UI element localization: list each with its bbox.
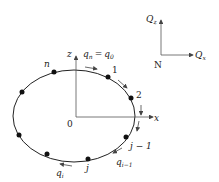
node [17, 133, 22, 138]
flow-arrow-top [85, 67, 97, 69]
flow-arrow-1-2 [118, 80, 127, 88]
node-label-2: 2 [136, 90, 142, 100]
qz-label: Qz [146, 14, 157, 25]
node-j [86, 157, 91, 162]
flow-label-qi-minus-1: qi−1 [116, 157, 133, 168]
flow-label-qi: qi [56, 168, 64, 179]
node-j-minus-1 [124, 135, 129, 140]
node-1 [106, 75, 111, 80]
node-label-1: 1 [112, 65, 118, 75]
force-origin-label: N [154, 60, 162, 70]
node-2 [129, 96, 134, 101]
diagram-canvas: z x 0 Qz Qx N n 1 2 j − 1 j qn=q0 qi−1 q… [0, 0, 219, 182]
node-label-j: j [84, 163, 89, 173]
node-n [52, 70, 57, 75]
flow-label-qn-eq-q0: qn=q0 [83, 49, 114, 60]
contour-ellipse [13, 70, 135, 162]
flow-arrow-qi [60, 164, 72, 166]
node-label-n: n [44, 59, 50, 69]
node [20, 90, 25, 95]
node-label-j-minus-1: j − 1 [128, 141, 152, 151]
node [45, 152, 50, 157]
flow-arrow-j [137, 121, 139, 131]
x-axis-label: x [154, 113, 159, 123]
qx-label: Qx [195, 50, 206, 61]
origin-label: 0 [67, 119, 73, 129]
z-axis-label: z [66, 49, 72, 59]
